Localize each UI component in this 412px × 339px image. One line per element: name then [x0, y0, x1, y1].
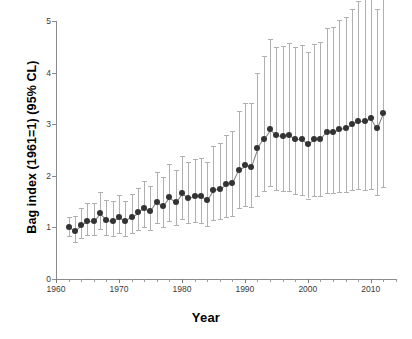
- error-bar-cap: [205, 162, 210, 163]
- error-bar-cap: [199, 223, 204, 224]
- error-bar-cap: [148, 230, 153, 231]
- error-bar: [176, 170, 177, 225]
- error-bar-cap: [67, 236, 72, 237]
- error-bar: [195, 159, 196, 222]
- error-bar-cap: [363, 190, 368, 191]
- error-bar-cap: [85, 203, 90, 204]
- error-bar-cap: [350, 190, 355, 191]
- error-bar: [314, 44, 315, 196]
- x-tick-major: [245, 279, 246, 283]
- x-tick-major: [56, 279, 57, 283]
- data-point: [292, 136, 298, 142]
- data-point: [343, 125, 349, 131]
- error-bar: [207, 162, 208, 226]
- y-tick-label: 2: [46, 171, 51, 181]
- x-tick-minor: [320, 279, 321, 282]
- error-bar: [320, 42, 321, 196]
- error-bar-cap: [306, 199, 311, 200]
- error-bar: [333, 27, 334, 194]
- y-tick-label: 3: [46, 119, 51, 129]
- x-tick-minor: [383, 279, 384, 282]
- error-bar-cap: [224, 135, 229, 136]
- error-bar-cap: [344, 17, 349, 18]
- data-point: [91, 218, 97, 224]
- error-bar: [276, 47, 277, 190]
- error-bar-cap: [375, 195, 380, 196]
- data-point: [204, 197, 210, 203]
- x-tick-label: 2010: [361, 284, 380, 294]
- data-point: [380, 110, 386, 116]
- error-bar-cap: [337, 20, 342, 21]
- data-point: [248, 164, 254, 170]
- error-bar-cap: [211, 220, 216, 221]
- x-tick-label: 1980: [172, 284, 191, 294]
- error-bar: [163, 177, 164, 227]
- error-bar-cap: [180, 156, 185, 157]
- error-bar-cap: [142, 181, 147, 182]
- data-point: [317, 136, 323, 142]
- error-bar-cap: [356, 189, 361, 190]
- error-bar: [346, 17, 347, 192]
- error-bar-cap: [148, 186, 153, 187]
- error-bar-cap: [369, 189, 374, 190]
- y-tick-label: 0: [46, 274, 51, 284]
- error-bar-cap: [293, 194, 298, 195]
- data-point: [349, 121, 355, 127]
- error-bar-cap: [243, 206, 248, 207]
- error-bar-cap: [344, 192, 349, 193]
- data-point: [129, 214, 135, 220]
- error-bar-cap: [243, 103, 248, 104]
- error-bar-cap: [230, 216, 235, 217]
- error-bar-cap: [381, 187, 386, 188]
- error-bar: [371, 0, 372, 189]
- error-bar: [352, 9, 353, 190]
- error-bar-cap: [98, 192, 103, 193]
- error-bar-cap: [312, 196, 317, 197]
- error-bar-cap: [174, 170, 179, 171]
- error-bar-cap: [281, 191, 286, 192]
- y-tick-mark: [52, 227, 56, 228]
- error-bar-cap: [287, 43, 292, 44]
- error-bar: [365, 0, 366, 190]
- error-bar-cap: [117, 233, 122, 234]
- error-bar-cap: [318, 42, 323, 43]
- error-bar: [308, 52, 309, 199]
- error-bar-cap: [331, 27, 336, 28]
- data-point: [166, 194, 172, 200]
- y-axis-line: [56, 21, 57, 279]
- error-bar-cap: [356, 1, 361, 2]
- x-tick-minor: [132, 279, 133, 282]
- error-bar-cap: [306, 52, 311, 53]
- x-tick-major: [119, 279, 120, 283]
- x-tick-label: 2000: [298, 284, 317, 294]
- error-bar-cap: [293, 47, 298, 48]
- error-bar-cap: [161, 177, 166, 178]
- error-bar-cap: [136, 230, 141, 231]
- error-bar-cap: [193, 222, 198, 223]
- x-tick-minor: [69, 279, 70, 282]
- error-bar-cap: [281, 46, 286, 47]
- error-bar-cap: [268, 39, 273, 40]
- x-tick-minor: [346, 279, 347, 282]
- data-point: [210, 187, 216, 193]
- data-point: [362, 118, 368, 124]
- error-bar: [220, 143, 221, 219]
- error-bar-cap: [237, 208, 242, 209]
- error-bar-cap: [262, 191, 267, 192]
- data-point: [160, 203, 166, 209]
- y-tick-label: 5: [46, 16, 51, 26]
- x-tick-minor: [106, 279, 107, 282]
- data-point: [273, 132, 279, 138]
- error-bar-cap: [92, 235, 97, 236]
- data-point: [280, 133, 286, 139]
- data-point: [223, 181, 229, 187]
- error-bar-cap: [312, 44, 317, 45]
- error-bar-cap: [218, 219, 223, 220]
- error-bar: [182, 156, 183, 219]
- x-tick-minor: [283, 279, 284, 282]
- error-bar-cap: [262, 56, 267, 57]
- error-bar-cap: [79, 208, 84, 209]
- error-bar: [257, 73, 258, 196]
- error-bar: [377, 9, 378, 195]
- x-tick-minor: [207, 279, 208, 282]
